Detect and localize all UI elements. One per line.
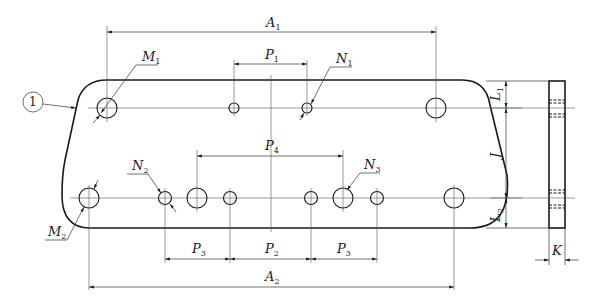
label-m2: M2 xyxy=(47,224,66,241)
label-n3: N3 xyxy=(363,157,380,174)
label-k: K xyxy=(551,243,563,258)
label-p2: P2 xyxy=(264,241,279,258)
callout-number: 1 xyxy=(29,95,37,109)
label-j: J xyxy=(488,152,503,161)
label-p4: P4 xyxy=(264,138,279,155)
label-m1: M1 xyxy=(141,49,160,66)
label-p1: P1 xyxy=(264,47,279,64)
label-n1: N1 xyxy=(335,51,352,68)
label-n2: N2 xyxy=(131,158,148,175)
label-p3-left: P3 xyxy=(191,241,206,258)
side-view-hidden-lines xyxy=(549,100,565,208)
label-a2: A2 xyxy=(264,269,279,286)
label-p3-right: P3 xyxy=(336,241,351,258)
plate-outline xyxy=(62,80,508,228)
label-a1: A1 xyxy=(265,15,280,32)
label-l2: L2 xyxy=(488,208,505,223)
technical-drawing: A1 P1 P4 P3 P2 P3 A2 M1 N1 N2 N3 M2 1 xyxy=(0,0,598,303)
label-l1: L1 xyxy=(488,87,505,102)
